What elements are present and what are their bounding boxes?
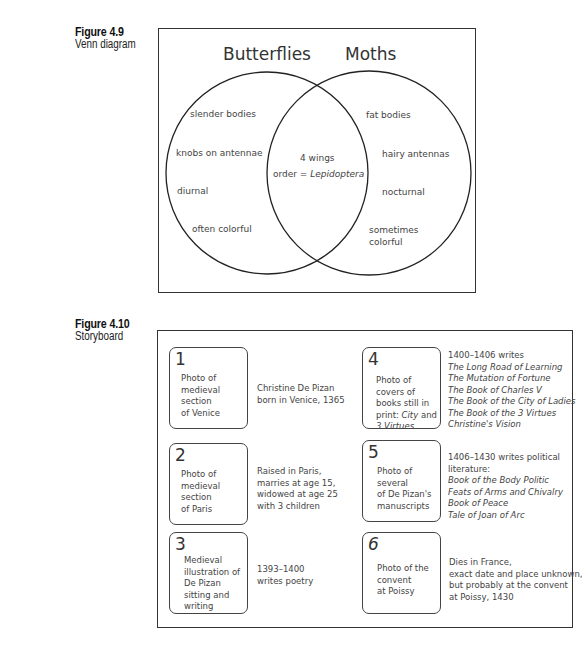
book-title: Book of the Body Politic <box>448 475 563 487</box>
panel-number: 6 <box>368 534 379 554</box>
venn-overlap-item: 4 wings <box>300 153 335 163</box>
venn-left-item: diurnal <box>177 186 208 196</box>
venn-right-item: fat bodies <box>366 110 411 120</box>
panel-number: 3 <box>175 534 186 554</box>
figure-caption: Venn diagram <box>75 38 136 51</box>
storyboard-panel-3: 3 Medieval illustration of De Pizan sitt… <box>169 532 248 614</box>
storyboard-panel-6: 6 Photo of the convent at Poissy <box>362 532 441 614</box>
panel-2-text: Raised in Paris, marries at age 15, wido… <box>257 466 338 512</box>
panel-description: Photo of medieval section of Paris <box>181 469 220 515</box>
venn-left-item: often colorful <box>192 224 252 234</box>
panel-1-text: Christine De Pizan born in Venice, 1365 <box>257 383 345 406</box>
venn-right-item: nocturnal <box>382 187 425 197</box>
venn-diagram: Butterflies Moths slender bodies knobs o… <box>158 28 476 293</box>
figure-4-10-label: Figure 4.10 Storyboard <box>75 317 141 343</box>
panel-description: Photo of covers of books still in print:… <box>376 375 437 433</box>
storyboard-panel-1: 1 Photo of medieval section of Venice <box>169 347 248 429</box>
venn-left-item: knobs on antennae <box>176 148 263 158</box>
venn-left-item: slender bodies <box>190 109 256 119</box>
panel-description: Photo of medieval section of Venice <box>181 373 220 419</box>
book-title: Tale of Joan of Arc <box>448 510 563 522</box>
panel-number: 5 <box>368 442 379 462</box>
venn-overlap-item: order = Lepidoptera <box>273 169 364 179</box>
panel-description: Photo of several of De Pizan's manuscrip… <box>377 466 432 512</box>
panel-4-text: 1400–1406 writes The Long Road of Learni… <box>448 350 576 431</box>
panel-number: 4 <box>368 349 379 369</box>
venn-right-title: Moths <box>345 44 396 64</box>
storyboard: 1 Photo of medieval section of Venice Ch… <box>157 330 573 628</box>
panel-6-text: Dies in France, exact date and place unk… <box>449 557 583 603</box>
panel-description: Photo of the convent at Poissy <box>377 563 429 598</box>
panel-description: Medieval illustration of De Pizan sittin… <box>184 555 240 613</box>
book-title: The Book of the 3 Virtues <box>448 408 576 420</box>
book-title: Christine's Vision <box>448 419 576 431</box>
book-title: Book of Peace <box>448 498 563 510</box>
book-title: The Book of the City of Ladies <box>448 396 576 408</box>
book-title: The Long Road of Learning <box>448 362 576 374</box>
panel-5-text: 1406–1430 writes political literature: B… <box>448 452 563 521</box>
book-title: Feats of Arms and Chivalry <box>448 487 563 499</box>
venn-right-item: colorful <box>369 237 403 247</box>
storyboard-panel-2: 2 Photo of medieval section of Paris <box>169 443 248 525</box>
book-title: The Mutation of Fortune <box>448 373 576 385</box>
storyboard-panel-5: 5 Photo of several of De Pizan's manuscr… <box>362 440 441 522</box>
storyboard-panel-4: 4 Photo of covers of books still in prin… <box>362 347 441 429</box>
venn-left-title: Butterflies <box>223 44 311 64</box>
figure-caption: Storyboard <box>75 330 129 343</box>
venn-right-item: sometimes <box>369 225 419 235</box>
panel-number: 1 <box>175 349 186 369</box>
figure-4-9-label: Figure 4.9 Venn diagram <box>75 25 149 51</box>
venn-right-item: hairy antennas <box>382 149 450 159</box>
panel-3-text: 1393–1400 writes poetry <box>257 564 313 587</box>
book-title: The Book of Charles V <box>448 385 576 397</box>
panel-number: 2 <box>175 445 186 465</box>
